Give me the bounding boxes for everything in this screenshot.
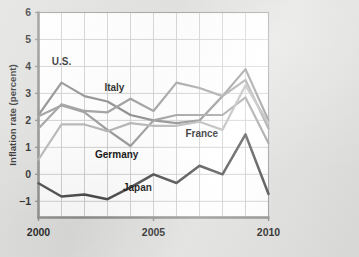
series-label-us: U.S. [52,56,72,67]
y-axis-title-text: Inflation rate (percent) [7,64,18,165]
y-axis-tick-labels: 6543210−1 [19,6,31,207]
x-tick-label: 2005 [142,226,166,238]
y-tick-label: 2 [25,114,31,126]
series-label-france: France [185,128,218,139]
x-tick-label: 2000 [27,226,51,238]
x-tick-label: 2010 [257,226,281,238]
series-label-japan: Japan [123,182,152,193]
series-label-germany: Germany [95,149,139,160]
y-tick-label: 5 [25,33,31,45]
y-tick-label: 0 [25,168,31,180]
y-tick-label: 6 [25,6,31,18]
chart-figure: 6543210−1 200020052010 Inflation rate (p… [0,0,359,257]
y-tick-label: 3 [25,87,31,99]
inflation-rate-line-chart: 6543210−1 200020052010 Inflation rate (p… [0,0,359,257]
series-label-italy: Italy [104,82,124,93]
y-tick-label: 1 [25,141,31,153]
y-axis-title: Inflation rate (percent) [7,64,18,165]
y-tick-label: −1 [19,195,31,207]
x-axis-tick-labels: 200020052010 [27,226,281,238]
y-tick-label: 4 [25,60,31,72]
